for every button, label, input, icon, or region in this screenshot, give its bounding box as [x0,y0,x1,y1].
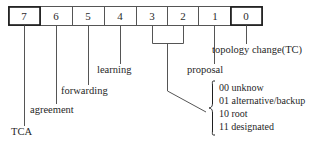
grouped-value-01-code: 01 [219,95,229,106]
bit-cell-7: 7 [8,11,40,22]
grouped-value-00: 00 unknow [219,82,264,95]
bit-cell-5: 5 [72,11,104,22]
grouped-value-11: 11 designated [219,121,274,134]
bit-cell-6: 6 [40,11,72,22]
grouped-value-10-meaning: root [232,108,248,119]
annotation-topology-change: topology change(TC) [212,44,302,56]
curly-brace-icon [207,78,217,140]
curly-brace-shape [207,78,217,138]
annotation-agreement: agreement [30,104,74,116]
bit-field-diagram: 7 6 5 4 3 2 1 0 topology change(TC) prop… [0,0,317,143]
grouped-value-01-meaning: alternative/backup [232,95,306,106]
annotation-learning: learning [97,64,131,76]
annotation-tca: TCA [11,126,32,138]
grouped-value-11-code: 11 [219,121,229,132]
grouped-value-10-code: 10 [219,108,229,119]
grouped-value-00-code: 00 [219,82,229,93]
grouped-value-00-meaning: unknow [232,82,264,93]
bit-cell-1: 1 [199,11,231,22]
annotation-proposal: proposal [187,64,223,76]
annotation-forwarding: forwarding [61,85,108,97]
grouped-value-11-meaning: designated [231,121,274,132]
bit-cell-4: 4 [104,11,136,22]
grouped-value-10: 10 root [219,108,248,121]
bit-cell-0: 0 [230,11,262,22]
grouped-value-01: 01 alternative/backup [219,95,305,108]
bit-cell-2: 2 [167,11,199,22]
bit-cell-3: 3 [136,11,168,22]
